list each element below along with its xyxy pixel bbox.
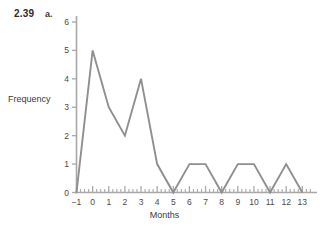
x-tick-label-7: 7 bbox=[203, 197, 208, 207]
x-tick-label-10: 10 bbox=[249, 197, 259, 207]
y-tick-label-1: 1 bbox=[64, 159, 69, 169]
frequency-data-line bbox=[77, 50, 303, 192]
y-tick-label-0: 0 bbox=[64, 188, 69, 198]
x-tick-label-13: 13 bbox=[298, 197, 308, 207]
y-tick-label-4: 4 bbox=[64, 74, 69, 84]
x-tick-label-6: 6 bbox=[187, 197, 192, 207]
x-tick-label-3: 3 bbox=[139, 197, 144, 207]
y-tick-label-3: 3 bbox=[64, 102, 69, 112]
line-chart-plot: 0123456 −1012345678910111213 bbox=[0, 0, 329, 234]
y-tick-label-2: 2 bbox=[64, 131, 69, 141]
y-tick-labels: 0123456 bbox=[64, 17, 69, 198]
x-axis-group: −1012345678910111213 bbox=[72, 186, 317, 207]
x-tick-label-4: 4 bbox=[155, 197, 160, 207]
x-tick-label-8: 8 bbox=[219, 197, 224, 207]
x-tick-label-11: 11 bbox=[266, 197, 275, 207]
x-tick-label--1: −1 bbox=[72, 197, 82, 207]
figure-container: 2.39 a. Frequency Months 0123456 −101234… bbox=[0, 0, 329, 234]
x-tick-label-1: 1 bbox=[106, 197, 111, 207]
y-tick-label-6: 6 bbox=[64, 17, 69, 27]
x-tick-labels: −1012345678910111213 bbox=[72, 197, 308, 207]
y-tick-label-5: 5 bbox=[64, 45, 69, 55]
x-tick-label-9: 9 bbox=[235, 197, 240, 207]
x-tick-label-0: 0 bbox=[90, 197, 95, 207]
x-tick-label-2: 2 bbox=[123, 197, 128, 207]
y-axis-group: 0123456 bbox=[64, 16, 76, 198]
x-tick-label-5: 5 bbox=[171, 197, 176, 207]
x-tick-label-12: 12 bbox=[281, 197, 291, 207]
